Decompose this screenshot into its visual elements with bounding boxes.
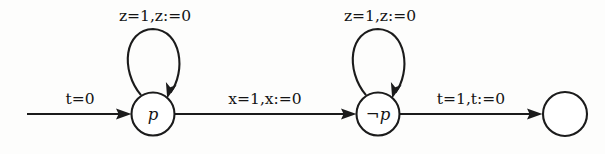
edge-loop-p: [128, 29, 180, 98]
edge-notp-to-final: [400, 109, 543, 120]
loop-p-path: [128, 29, 180, 95]
edge-p-to-notp: [175, 109, 357, 120]
edge-entry: [27, 109, 132, 120]
edge-label-notp-to-final: t=1,t:=0: [437, 90, 505, 108]
edge-loop-notp: [353, 29, 405, 98]
node-not-p[interactable]: ¬p: [357, 93, 400, 136]
node-not-p-label-text: p: [380, 105, 391, 124]
negation-symbol-icon: ¬: [366, 105, 380, 124]
automaton-canvas: p ¬p t=0 z=1,z:=0 x=1,x:=0 z=1,z:=0 t=1,…: [0, 0, 605, 154]
edge-label-entry: t=0: [65, 90, 94, 108]
edge-label-loop-notp: z=1,z:=0: [344, 7, 416, 25]
automaton-diagram: p ¬p t=0 z=1,z:=0 x=1,x:=0 z=1,z:=0 t=1,…: [0, 0, 605, 154]
node-not-p-label: ¬p: [366, 105, 391, 124]
loop-notp-path: [353, 29, 405, 95]
node-final[interactable]: [543, 92, 587, 136]
edge-label-p-to-notp: x=1,x:=0: [228, 90, 301, 108]
node-p-label: p: [148, 105, 159, 124]
edge-label-loop-p: z=1,z:=0: [119, 7, 191, 25]
node-p[interactable]: p: [132, 93, 175, 136]
node-final-circle[interactable]: [543, 92, 587, 136]
